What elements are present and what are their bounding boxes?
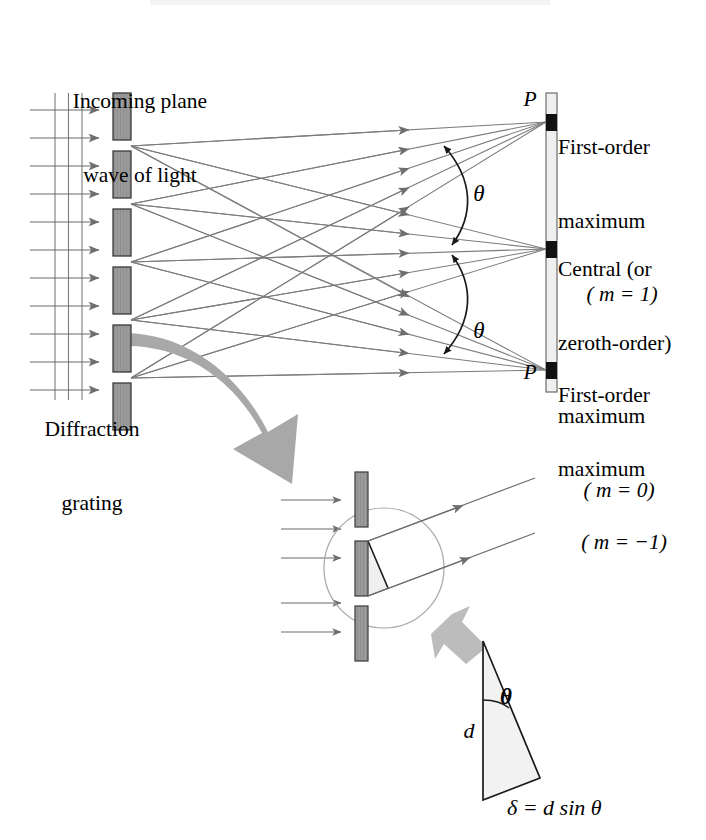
inset-grating-bars (355, 472, 368, 661)
incoming-wave-label: Incoming plane wave of light (30, 40, 250, 236)
d-side-label: d (460, 718, 478, 743)
maximum-band-m-1 (546, 362, 557, 379)
theta-lower-label: θ (468, 318, 490, 344)
path-difference-equation: δ = d sin θ (507, 795, 677, 820)
diffraction-grating-label: Diffraction grating (12, 368, 172, 564)
point-p-bottom-label: P (520, 360, 540, 385)
maximum-band-m1 (546, 114, 557, 131)
inset-incoming-arrows (281, 500, 341, 632)
zoom-callout-arrow-small (431, 606, 487, 664)
inset-path-difference-wedge (368, 541, 388, 596)
path-difference-triangle (483, 641, 540, 800)
inset-outgoing-rays (368, 478, 535, 596)
inset-magnifier-circle (324, 508, 444, 628)
theta-upper-label: θ (468, 181, 490, 207)
point-p-top-label: P (520, 87, 540, 112)
figure-canvas: Incoming plane wave of light Diffraction… (0, 0, 706, 840)
theta-inset-label: θ (495, 684, 517, 710)
first-order-bottom-label: First-order maximum ( m = −1) (558, 334, 706, 604)
maximum-band-m0 (546, 241, 557, 258)
viewing-screen (546, 93, 557, 392)
